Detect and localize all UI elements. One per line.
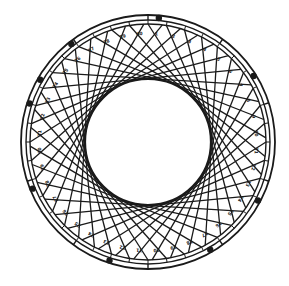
cell-label: 13 <box>245 180 252 188</box>
ring-marker-blob <box>106 257 112 263</box>
inner-void-circle <box>85 79 211 205</box>
cell-label: 32 <box>39 113 45 120</box>
ring-marker-blob <box>250 73 256 79</box>
ring-tick <box>264 103 269 105</box>
ring-marker-blob <box>26 100 32 106</box>
outer-rings <box>21 15 275 269</box>
cell-label: 35 <box>62 67 70 75</box>
ring-marker-blob <box>29 185 35 191</box>
cell-label: 38 <box>103 38 111 45</box>
cell-label: 23 <box>103 239 111 246</box>
ring-marker-blob <box>255 197 261 203</box>
cell-label: 22 <box>119 244 126 250</box>
cell-label: 33 <box>44 97 51 105</box>
ring-marker-blob <box>37 77 43 83</box>
cell-label: 18 <box>186 239 194 246</box>
cell-label: 15 <box>227 208 235 216</box>
ring-tick <box>27 180 32 182</box>
cell-label: 25 <box>73 221 81 229</box>
cell-label: 1 <box>155 31 159 36</box>
circular-lattice-diagram: 1234567891011121314151617181920212223242… <box>0 0 289 286</box>
ring-marker-blob <box>68 41 74 47</box>
cell-label: 40 <box>136 31 143 36</box>
cell-label: 11 <box>253 147 258 154</box>
ring-tick <box>264 180 269 182</box>
cell-label: 39 <box>119 33 126 39</box>
cell-label: 31 <box>37 130 42 137</box>
cell-label: 29 <box>39 164 45 171</box>
cell-label: 2 <box>171 34 175 40</box>
cell-label: 12 <box>250 164 256 171</box>
cell-label: 8 <box>245 98 251 103</box>
ring-marker-blob <box>156 15 162 21</box>
diagram-canvas: 1234567891011121314151617181920212223242… <box>0 0 289 286</box>
ring-tick <box>220 39 223 43</box>
cell-label: 10 <box>253 130 258 137</box>
cell-label: 30 <box>37 147 42 154</box>
cell-label: 9 <box>251 115 257 119</box>
ring-tick <box>73 241 76 245</box>
ring-tick <box>220 241 223 245</box>
ring-marker-blob <box>207 247 213 253</box>
cell-label: 20 <box>153 247 160 252</box>
cell-label: 28 <box>44 180 51 188</box>
cell-label: 19 <box>170 244 177 250</box>
cell-label: 21 <box>136 247 143 252</box>
